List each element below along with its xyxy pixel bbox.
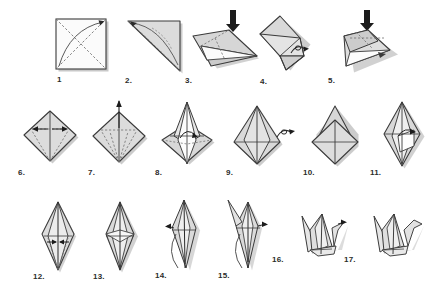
step-label-8: 8. xyxy=(155,169,162,177)
figure-bird-base xyxy=(370,96,434,170)
figure-reverse-fold-neck xyxy=(152,194,214,274)
down-arrow-icon xyxy=(226,10,240,32)
step-label-10: 10. xyxy=(303,169,315,177)
step-label-13: 13. xyxy=(93,273,105,281)
step-label-1: 1 xyxy=(57,76,62,84)
figure-triangle-fold xyxy=(122,14,188,76)
step-label-7: 7. xyxy=(88,169,95,177)
figure-square-sheet xyxy=(50,13,112,75)
step-label-11: 11. xyxy=(370,169,381,177)
step-label-9: 9. xyxy=(226,169,233,177)
step-label-15: 15. xyxy=(218,272,230,280)
turn-over-symbol-1 xyxy=(288,42,314,58)
step-label-2: 2. xyxy=(125,77,132,85)
down-arrow-icon xyxy=(360,10,374,31)
figure-petal-prep xyxy=(86,98,152,168)
figure-reverse-side xyxy=(300,98,370,170)
figure-finished-crane xyxy=(360,208,434,266)
turn-over-symbol-2 xyxy=(274,126,300,142)
figure-diamond-creases xyxy=(18,105,82,167)
figure-lift-flap xyxy=(152,96,222,170)
step-label-3: 3. xyxy=(185,77,192,85)
step-label-12: 12. xyxy=(33,273,45,281)
step-label-16: 16. xyxy=(272,256,284,264)
step-label-5: 5. xyxy=(328,77,335,85)
figure-flap-fold xyxy=(326,8,406,76)
step-label-17: 17. xyxy=(344,256,356,264)
figure-fold-to-centre xyxy=(30,198,86,274)
turn-over-icon xyxy=(288,42,314,58)
step-label-6: 6. xyxy=(18,169,25,177)
turn-over-icon xyxy=(274,126,300,142)
step-label-4: 4. xyxy=(260,78,267,86)
figure-both-folded xyxy=(90,198,150,274)
step-label-14: 14. xyxy=(155,272,167,280)
origami-crane-diagram: 1 2. 3. xyxy=(0,0,438,294)
